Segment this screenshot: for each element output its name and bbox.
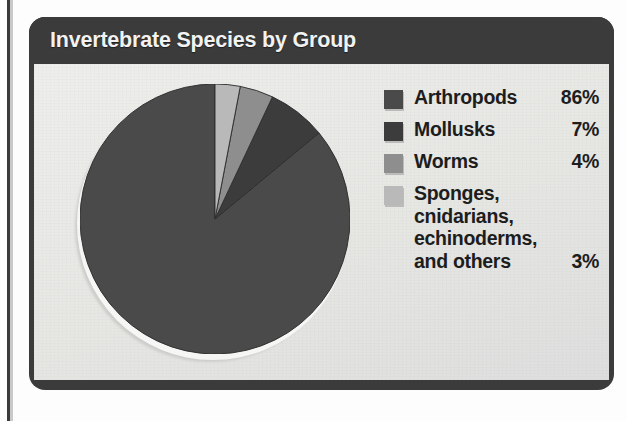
pie-chart: Arthropods 86%Mollusks 7%Worms 4%Sponges… [73,82,357,366]
legend-item-label: Sponges, cnidarians, echinoderms, and ot… [414,182,553,272]
legend-item-value: 86% [553,86,599,109]
chart-legend: Arthropods86%Mollusks7%Worms4%Sponges, c… [384,86,599,281]
legend-item-value: 7% [553,118,599,141]
legend-item-value: 4% [553,150,599,173]
scanned-page: Invertebrate Species by Group Arthropods… [0,0,626,421]
legend-color-swatch [384,122,403,141]
figure-panel: Invertebrate Species by Group Arthropods… [29,17,614,390]
pie-slices-svg: Arthropods 86%Mollusks 7%Worms 4%Sponges… [80,84,350,354]
legend-color-swatch [384,186,403,205]
page-gutter-shadow [10,0,13,421]
chart-header-bar: Invertebrate Species by Group [29,17,614,64]
chart-title: Invertebrate Species by Group [50,28,356,53]
legend-item: Worms4% [384,150,599,173]
legend-item: Mollusks7% [384,118,599,141]
legend-color-swatch [384,154,403,173]
legend-item: Arthropods86% [384,86,599,109]
legend-item: Sponges, cnidarians, echinoderms, and ot… [384,182,599,272]
legend-color-swatch [384,90,403,109]
legend-item-label: Mollusks [414,118,553,141]
legend-item-value: 3% [553,250,599,273]
legend-item-label: Worms [414,150,553,173]
legend-item-label: Arthropods [414,86,553,109]
chart-body: Arthropods 86%Mollusks 7%Worms 4%Sponges… [34,64,609,380]
